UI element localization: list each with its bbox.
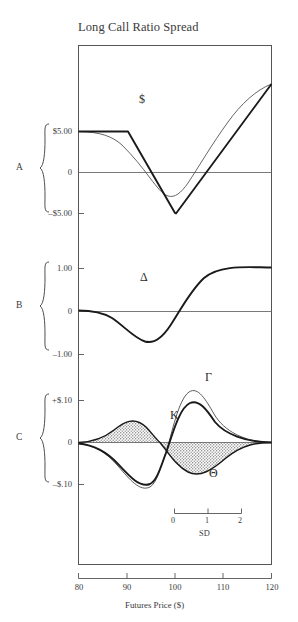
x-tick-110: 110 xyxy=(208,582,238,592)
panel-b-ytick-top: 1.00 xyxy=(28,263,72,273)
x-axis xyxy=(79,573,272,579)
panel-a-glyph-dollar: $ xyxy=(139,92,145,107)
x-tick-100: 100 xyxy=(160,582,190,592)
panel-a-ytick-bottom: –$5.00 xyxy=(24,208,72,218)
panel-c-glyph-kappa: Κ xyxy=(170,408,179,423)
x-tick-80: 80 xyxy=(64,582,94,592)
panel-a-expiration-curve xyxy=(79,84,272,214)
panel-b-ytick-bottom: –1.00 xyxy=(24,349,72,359)
panel-c-ytick-bottom: –$.10 xyxy=(24,479,72,489)
sd-tick-2: 2 xyxy=(238,516,242,525)
panel-c-glyph-gamma: Γ xyxy=(205,370,212,385)
sd-tick-0: 0 xyxy=(171,516,175,525)
panel-c-theta-area-positive xyxy=(79,421,161,443)
sd-axis xyxy=(175,509,242,514)
panel-c-ytick-top: +$.10 xyxy=(24,395,72,405)
panel-a xyxy=(79,84,272,214)
panel-b-glyph-delta: Δ xyxy=(140,270,148,285)
figure-container: Long Call Ratio Spread xyxy=(0,0,298,622)
panel-letter-b: B xyxy=(16,300,22,310)
x-tick-120: 120 xyxy=(257,582,287,592)
sd-tick-1: 1 xyxy=(205,516,209,525)
panel-b-ytick-zero: 0 xyxy=(28,306,72,316)
sd-axis-label: SD xyxy=(199,529,210,538)
panel-a-ytick-top: $5.00 xyxy=(28,126,72,136)
panel-c xyxy=(79,391,272,489)
panel-b-delta-curve xyxy=(79,267,272,342)
panel-letter-c: C xyxy=(16,432,22,442)
panel-c-ytick-zero: 0 xyxy=(28,437,72,447)
x-tick-90: 90 xyxy=(112,582,142,592)
panel-a-ytick-zero: 0 xyxy=(28,167,72,177)
panel-braces xyxy=(40,124,49,482)
panel-b xyxy=(79,267,272,354)
panel-c-glyph-theta: Θ xyxy=(209,466,218,481)
panel-letter-a: A xyxy=(16,162,23,172)
panel-a-theoretical-curve xyxy=(79,84,272,196)
x-axis-title: Futures Price ($) xyxy=(125,600,184,610)
